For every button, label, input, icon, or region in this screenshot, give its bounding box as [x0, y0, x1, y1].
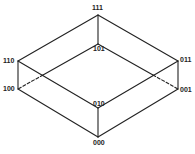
edge-101-100-solid [43, 44, 98, 75]
label-011: 011 [180, 56, 191, 64]
edge-101-001-solid [98, 44, 153, 75]
label-000: 000 [93, 139, 105, 147]
edge-111-011 [98, 15, 178, 61]
label-110: 110 [3, 57, 14, 65]
edge-100-000 [18, 89, 98, 137]
label-100: 100 [3, 85, 15, 93]
label-010: 010 [93, 100, 105, 108]
edge-101-100-dashed [18, 75, 43, 89]
edge-111-110 [18, 15, 98, 61]
edge-001-000 [98, 89, 178, 137]
cube-diagram [0, 0, 195, 154]
label-001: 001 [180, 86, 192, 94]
edge-101-001-dashed [153, 75, 178, 89]
edge-011-010 [98, 61, 178, 108]
label-101: 101 [93, 45, 105, 53]
label-111: 111 [92, 4, 103, 12]
edge-110-010 [18, 61, 98, 108]
